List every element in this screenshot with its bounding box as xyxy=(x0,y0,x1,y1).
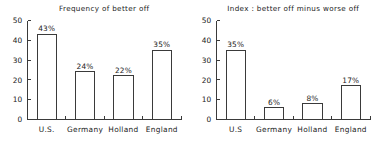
chart-title: Index : better off minus worse off xyxy=(227,4,359,13)
x-axis-category-label: U.S xyxy=(229,125,242,134)
y-axis-tick-label: 0 xyxy=(206,115,211,124)
y-axis-tick-label: 50 xyxy=(201,16,211,25)
y-axis-tick-label: 20 xyxy=(13,76,23,85)
y-axis-tick-label: 30 xyxy=(201,56,211,65)
bar[interactable] xyxy=(302,104,321,120)
bar[interactable] xyxy=(264,108,283,120)
x-axis-category-label: Germany xyxy=(256,125,292,134)
bar[interactable] xyxy=(114,76,133,120)
chart-panel-frequency: Frequency of better off0102030405043%U.S… xyxy=(0,0,189,143)
bar-value-label: 6% xyxy=(268,98,280,107)
y-axis-tick-label: 10 xyxy=(201,95,211,104)
bar[interactable] xyxy=(152,50,171,119)
x-axis-category-label: Holland xyxy=(297,125,327,134)
y-axis-tick-label: 40 xyxy=(201,36,211,45)
bar-value-label: 24% xyxy=(77,62,94,71)
bar[interactable] xyxy=(37,34,56,119)
x-axis-category-label: Holland xyxy=(108,125,138,134)
y-axis-tick-label: 30 xyxy=(13,56,23,65)
bar-value-label: 8% xyxy=(306,94,318,103)
y-axis-tick-label: 10 xyxy=(13,95,23,104)
x-axis-category-label: U.S. xyxy=(39,125,55,134)
bar[interactable] xyxy=(226,50,245,119)
x-axis-category-label: England xyxy=(334,125,366,134)
chart-panel-index: Index : better off minus worse off010203… xyxy=(189,0,377,143)
y-axis-tick-label: 40 xyxy=(13,36,23,45)
x-axis-category-label: England xyxy=(146,125,178,134)
bar-chart-index: Index : better off minus worse off010203… xyxy=(189,0,377,143)
y-axis-tick-label: 50 xyxy=(13,16,23,25)
bar[interactable] xyxy=(75,72,94,120)
figure-two-bar-charts: Frequency of better off0102030405043%U.S… xyxy=(0,0,377,143)
y-axis-tick-label: 0 xyxy=(18,115,23,124)
bar-value-label: 17% xyxy=(342,76,359,85)
bar-value-label: 22% xyxy=(115,66,132,75)
bar-chart-frequency: Frequency of better off0102030405043%U.S… xyxy=(0,0,189,143)
y-axis-tick-label: 20 xyxy=(201,76,211,85)
bar-value-label: 35% xyxy=(227,40,244,49)
bar-value-label: 35% xyxy=(153,40,170,49)
bar[interactable] xyxy=(341,86,360,120)
chart-title: Frequency of better off xyxy=(59,4,150,13)
bar-value-label: 43% xyxy=(38,24,55,33)
x-axis-category-label: Germany xyxy=(67,125,103,134)
